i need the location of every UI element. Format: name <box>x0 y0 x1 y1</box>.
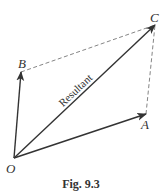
point-label-o: O <box>6 161 16 176</box>
point-label-a: A <box>140 117 149 132</box>
parallelogram-vector-diagram: Resultant O A B C Fig. 9.3 <box>0 0 165 195</box>
dashed-line-ac <box>146 25 155 114</box>
point-label-c: C <box>150 10 159 25</box>
vector-ob <box>14 72 21 158</box>
dashed-line-bc <box>21 25 155 72</box>
figure-caption: Fig. 9.3 <box>62 177 100 191</box>
vector-oa <box>14 114 146 158</box>
vector-oc-resultant <box>14 25 155 158</box>
resultant-label: Resultant <box>56 71 94 108</box>
point-label-b: B <box>18 56 26 71</box>
